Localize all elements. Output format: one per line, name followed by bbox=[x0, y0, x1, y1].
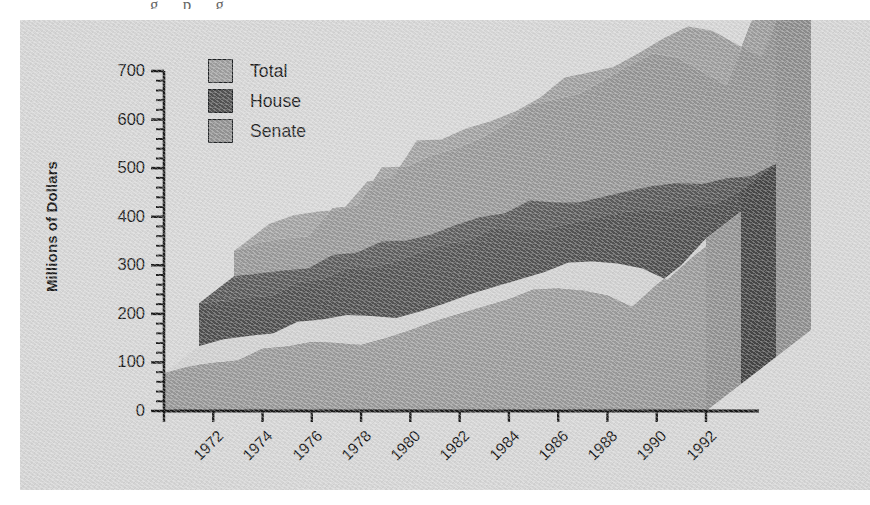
y-tick-label-500: 500 bbox=[99, 159, 145, 176]
chart-figure-plate: Millions of Dollars 01002003004005006007… bbox=[20, 20, 870, 490]
figure-page: g p g Millions of Dollars 01002003004005… bbox=[0, 0, 870, 505]
legend-swatch-total-icon bbox=[208, 59, 233, 83]
chart-legend: TotalHouseSenate bbox=[208, 56, 306, 146]
y-tick-label-600: 600 bbox=[99, 111, 145, 128]
legend-item-senate: Senate bbox=[208, 116, 306, 146]
y-tick-label-0: 0 bbox=[99, 402, 145, 419]
y-tick-label-200: 200 bbox=[99, 305, 145, 322]
legend-item-house: House bbox=[208, 86, 306, 116]
legend-swatch-house-icon bbox=[208, 89, 233, 113]
x-axis-ticks bbox=[164, 411, 706, 422]
y-tick-label-400: 400 bbox=[99, 208, 145, 225]
legend-label-senate: Senate bbox=[250, 121, 306, 142]
legend-label-total: Total bbox=[250, 61, 287, 82]
legend-item-total: Total bbox=[208, 56, 306, 86]
y-axis-ticks bbox=[151, 71, 164, 411]
y-tick-label-100: 100 bbox=[99, 353, 145, 370]
y-tick-label-700: 700 bbox=[99, 62, 145, 79]
area-chart-plot bbox=[20, 20, 870, 490]
cropped-caption-sliver: g p g bbox=[150, 0, 410, 9]
legend-swatch-senate-icon bbox=[208, 119, 233, 143]
legend-label-house: House bbox=[250, 91, 301, 112]
y-axis-title: Millions of Dollars bbox=[43, 132, 60, 322]
y-tick-label-300: 300 bbox=[99, 256, 145, 273]
